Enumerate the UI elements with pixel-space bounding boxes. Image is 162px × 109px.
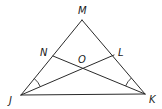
triangle-diagram: M N L O J K	[0, 0, 162, 109]
label-l: L	[118, 47, 124, 58]
segment-mk	[82, 20, 145, 94]
segment-jk	[21, 94, 145, 95]
angle-mark-j	[34, 79, 40, 87]
segment-mj	[21, 20, 82, 95]
label-k: K	[149, 94, 157, 105]
label-o: O	[78, 54, 86, 65]
label-j: J	[7, 95, 12, 106]
diagram-svg: M N L O J K	[0, 0, 162, 109]
label-n: N	[40, 47, 48, 58]
label-m: M	[78, 5, 87, 16]
angle-mark-k	[126, 78, 132, 86]
